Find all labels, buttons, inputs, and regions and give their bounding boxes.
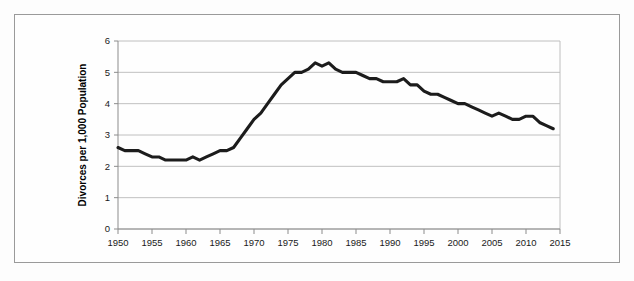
x-tick-label-1950: 1950 [107,237,128,248]
x-tick-label-1955: 1955 [141,237,162,248]
chart-figure: 0123456 19501955196019651970197519801985… [0,0,634,281]
x-tick-label-1970: 1970 [243,237,264,248]
y-tick-label-0: 0 [105,223,110,234]
y-axis-title: Divorces per 1,000 Population [77,64,88,207]
x-tick-label-2005: 2005 [481,237,502,248]
x-tick-label-1980: 1980 [311,237,332,248]
y-axis: 0123456 [105,35,118,234]
y-tick-label-2: 2 [105,161,110,172]
x-tick-label-2015: 2015 [549,237,570,248]
chart-plot-container: 0123456 19501955196019651970197519801985… [0,0,634,281]
x-tick-label-1975: 1975 [277,237,298,248]
x-tick-label-1990: 1990 [379,237,400,248]
x-tick-label-1960: 1960 [175,237,196,248]
x-tick-label-1965: 1965 [209,237,230,248]
y-axis-title-text: Divorces per 1,000 Population [77,64,88,207]
line-chart-svg: 0123456 19501955196019651970197519801985… [0,0,634,281]
data-series-group [118,63,553,160]
x-axis: 1950195519601965197019751980198519901995… [107,229,570,248]
x-tick-label-2000: 2000 [447,237,468,248]
x-tick-label-2010: 2010 [515,237,536,248]
x-tick-label-1985: 1985 [345,237,366,248]
y-tick-label-4: 4 [105,98,110,109]
y-tick-label-1: 1 [105,192,110,203]
y-tick-label-3: 3 [105,129,110,140]
data-line-series-0 [118,63,553,160]
y-tick-label-5: 5 [105,67,110,78]
y-tick-label-6: 6 [105,35,110,46]
x-tick-label-1995: 1995 [413,237,434,248]
